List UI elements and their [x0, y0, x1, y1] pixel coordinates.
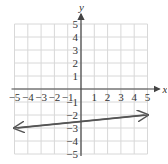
- y-tick-label: 1: [73, 70, 79, 82]
- y-tick-label: 3: [73, 44, 79, 56]
- x-tick-label: −4: [22, 91, 34, 103]
- x-tick-label: 4: [131, 91, 137, 103]
- x-tick-label: −5: [9, 91, 21, 103]
- y-tick-label: 4: [73, 31, 79, 43]
- x-tick-label: 3: [118, 91, 124, 103]
- y-tick-label: −3: [66, 122, 78, 134]
- y-tick-label: −1: [66, 96, 78, 108]
- y-tick-label: −5: [66, 148, 78, 160]
- y-tick-label: 2: [73, 57, 79, 69]
- y-tick-label: −4: [66, 135, 78, 147]
- x-tick-label: 5: [145, 91, 151, 103]
- x-tick-label: −2: [49, 91, 61, 103]
- x-tick-label: −3: [35, 91, 47, 103]
- x-tick-label: 2: [105, 91, 111, 103]
- x-tick-label: 1: [92, 91, 98, 103]
- y-tick-label: 5: [73, 18, 79, 30]
- x-axis-label: x: [162, 83, 168, 95]
- y-axis-label: y: [78, 1, 84, 13]
- coordinate-plane: xy−5−4−3−2−11234554321−1−2−3−4−5: [0, 0, 167, 164]
- y-tick-label: −2: [66, 109, 78, 121]
- line-series-arrow: [15, 115, 145, 128]
